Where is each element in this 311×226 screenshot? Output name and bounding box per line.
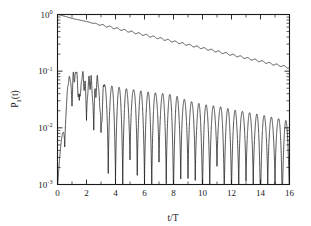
y-tick-exponent: -3 bbox=[47, 178, 52, 185]
x-tick-label: 16 bbox=[285, 188, 295, 198]
y-axis-title: P1(t) bbox=[10, 90, 22, 107]
x-axis-title: t/T bbox=[167, 213, 178, 223]
x-tick-label: 2 bbox=[84, 188, 89, 198]
y-tick-exponent: -2 bbox=[47, 121, 52, 128]
x-tick-label: 14 bbox=[256, 188, 266, 198]
y-axis-title-tail: (t) bbox=[10, 90, 21, 99]
log-decay-plot: 0246810121416 10010-110-210-3 t/T P1(t) bbox=[0, 0, 311, 226]
x-tick-label: 0 bbox=[55, 188, 60, 198]
figure-container: 0246810121416 10010-110-210-3 t/T P1(t) bbox=[0, 0, 311, 226]
x-tick-label: 12 bbox=[227, 188, 236, 198]
x-tick-label: 4 bbox=[113, 188, 118, 198]
x-tick-label: 6 bbox=[142, 188, 147, 198]
y-tick-exponent: -1 bbox=[47, 65, 52, 72]
x-tick-label: 10 bbox=[198, 188, 208, 198]
x-tick-label: 8 bbox=[171, 188, 176, 198]
y-tick-exponent: 0 bbox=[49, 8, 52, 15]
y-axis-title-group: P1(t) bbox=[10, 90, 22, 107]
